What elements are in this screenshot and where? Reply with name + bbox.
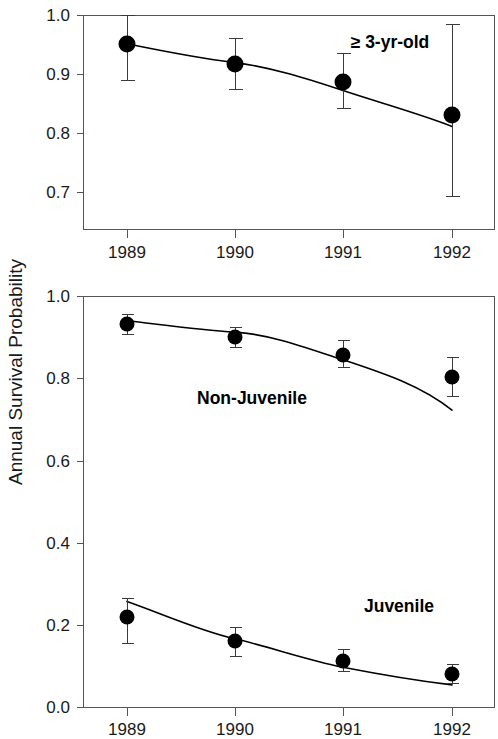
bottom-xtick-label-3: 1992: [433, 720, 471, 739]
bottom-xtick-label-0: 1989: [108, 720, 146, 739]
bottom-panel-y-ticks: [77, 297, 84, 708]
data-point-1991: [335, 74, 352, 91]
bottom-ytick-label-2: 0.6: [46, 452, 70, 471]
y-axis-title: Annual Survival Probability: [5, 259, 26, 486]
bottom-ytick-label-3: 0.4: [46, 534, 70, 553]
bottom-ytick-label-1: 0.8: [46, 369, 70, 388]
top-ytick-label-1: 0.9: [46, 65, 70, 84]
data-point-1990: [227, 56, 244, 73]
top-xtick-label-1: 1990: [216, 243, 254, 262]
top-panel: 1.0 0.9 0.8 0.7 1989 1990 1991 1992: [46, 6, 494, 262]
bottom-ytick-label-5: 0.0: [46, 698, 70, 717]
bottom-panel-frame: [84, 297, 495, 708]
juv-data-point-1989: [120, 610, 135, 625]
top-xtick-label-3: 1992: [433, 243, 471, 262]
juvenile-data-points: [120, 610, 460, 682]
top-panel-fit-curve: [127, 44, 452, 127]
bottom-ytick-label-0: 1.0: [46, 287, 70, 306]
survival-probability-figure: Annual Survival Probability 1.0 0.9 0.8 …: [0, 0, 498, 739]
juv-data-point-1991: [336, 654, 351, 669]
top-xtick-label-0: 1989: [108, 243, 146, 262]
data-point-1989: [119, 36, 136, 53]
bottom-xtick-label-1: 1990: [216, 720, 254, 739]
bottom-panel-x-ticks: [128, 708, 453, 716]
bottom-ytick-label-4: 0.2: [46, 616, 70, 635]
top-ytick-label-2: 0.8: [46, 124, 70, 143]
non-juvenile-series-label: Non-Juvenile: [197, 388, 307, 408]
top-ytick-label-0: 1.0: [46, 6, 70, 25]
figure-container: Annual Survival Probability 1.0 0.9 0.8 …: [0, 0, 498, 739]
top-ytick-label-3: 0.7: [46, 183, 70, 202]
bottom-panel-y-tick-labels: 1.0 0.8 0.6 0.4 0.2 0.0: [46, 287, 70, 717]
juv-data-point-1990: [228, 634, 243, 649]
data-point-1992: [444, 107, 461, 124]
top-panel-y-tick-labels: 1.0 0.9 0.8 0.7: [46, 6, 70, 202]
top-xtick-label-2: 1991: [324, 243, 362, 262]
juv-data-point-1992: [445, 667, 460, 682]
juvenile-series-label: Juvenile: [364, 596, 434, 616]
top-panel-y-ticks: [77, 16, 84, 193]
top-panel-x-ticks: [128, 230, 453, 238]
bottom-xtick-label-2: 1991: [324, 720, 362, 739]
nonjuv-data-point-1989: [120, 317, 135, 332]
bottom-panel-x-tick-labels: 1989 1990 1991 1992: [108, 720, 471, 739]
nonjuv-data-point-1991: [336, 348, 351, 363]
bottom-panel: 1.0 0.8 0.6 0.4 0.2 0.0 1989 1990 1991 1…: [46, 287, 494, 739]
non-juvenile-data-points: [120, 317, 460, 385]
top-panel-annotation-label: ≥ 3-yr-old: [351, 32, 430, 52]
nonjuv-data-point-1990: [228, 330, 243, 345]
nonjuv-data-point-1992: [445, 370, 460, 385]
top-panel-x-tick-labels: 1989 1990 1991 1992: [108, 243, 471, 262]
